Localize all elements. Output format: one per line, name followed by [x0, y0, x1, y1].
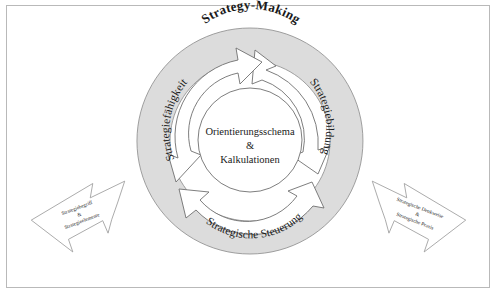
diagram-title: Strategy-Making — [199, 0, 304, 27]
strategy-making-cycle-diagram: Orientierungsschema & Kalkulationen Stra… — [0, 0, 497, 295]
center-line-3: Kalkulationen — [220, 154, 280, 165]
center-line-2: & — [246, 140, 254, 151]
left-flanking-arrow: Strategiebegriff & Strategieelemente — [28, 180, 131, 256]
right-flanking-arrow: Strategische Denkweise & Strategische Pr… — [365, 180, 468, 256]
diagram-title-text: Strategy-Making — [199, 0, 304, 27]
center-line-1: Orientierungsschema — [205, 126, 295, 137]
